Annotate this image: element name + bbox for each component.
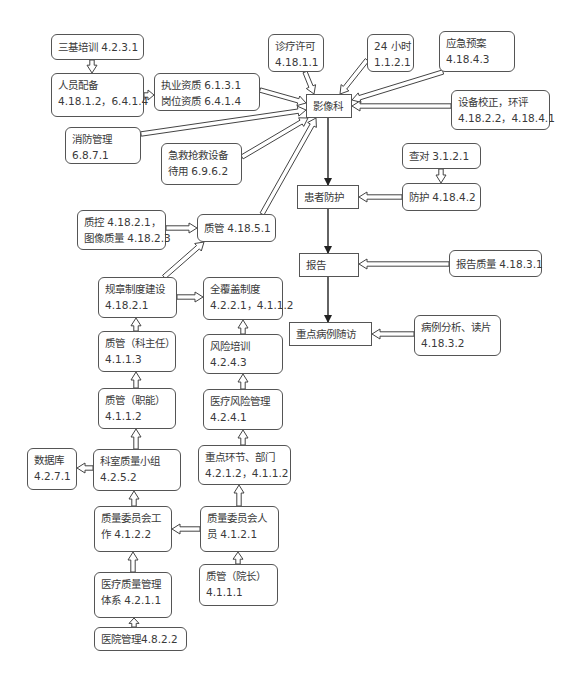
node-quanfugai: 全覆盖制度4.2.2.1，4.1.1.2 [203,277,283,320]
node-label-line2: 4.2.7.1 [34,468,70,484]
node-label-line2: 4.1.1.3 [105,351,169,367]
node-zhikong: 质控 4.18.2.1，图像质量 4.18.2.3 [77,210,166,250]
node-label-line2: 4.1.1.1 [206,584,271,600]
node-keshi: 科室质量小组4.2.5.2 [93,449,181,491]
node-renyuan: 人员配备4.18.1.2，6.4.1.4 [51,73,144,117]
arrow-hollow-zhongdianhj-to-yiliaofx [238,430,248,445]
node-label-line2: 6.8.7.1 [72,147,134,163]
node-label-line1: 规章制度建设 [105,281,170,297]
node-guizhang: 规章制度建设4.18.2.1 [98,277,177,318]
node-label-line2: 4.18.1.1 [275,54,317,70]
node-zhiye: 执业资质 6.1.3.1岗位资质 6.4.1.4 [154,73,260,111]
node-label-line1: 医疗质量管理 [101,576,165,592]
arrow-hollow-zhiye-to-yingxiang [259,88,306,106]
node-label-line2: 4.2.5.2 [100,469,174,485]
node-label-line1: 报告质量 4.18.3.1 [456,256,543,272]
node-label-line2: 作 4.1.2.2 [101,526,165,542]
arrow-hollow-fengxian-to-quanfugai [238,320,248,334]
node-zhiguankzr: 质管（科主任）4.1.1.3 [98,331,176,372]
node-label-line1: 查对 3.1.2.1 [409,148,469,164]
node-zhenliao: 诊疗许可4.18.1.1 [268,34,324,72]
node-label-line2: 1.1.2.1 [374,54,407,70]
node-label-line2: 4.18.2.2，4.18.4.1 [458,110,543,126]
node-label-line1: 消防管理 [72,131,134,147]
node-sanji: 三基培训 4.2.3.1 [51,34,144,60]
arrow-hollow-24h-to-yingxiang [340,59,369,94]
node-baogaozl: 报告质量 4.18.3.1 [449,250,542,277]
node-label-line2: 4.1.1.2 [105,408,169,424]
node-jijiu: 急救抢救设备待用 6.9.6.2 [161,143,242,185]
node-label-line1: 质量委员会工 [101,510,165,526]
arrow-hollow-weiyuangz-to-keshi [129,491,139,506]
node-label-line1: 重点环节、部门 [205,449,284,465]
node-yiliaofx: 医疗风险管理4.2.4.1 [203,389,283,430]
node-zhiguanzn: 质管（职能）4.1.1.2 [98,388,176,429]
node-label-line2: 4.18.2.1 [105,297,170,313]
node-baogao: 报告 [299,253,359,277]
node-weiyuanry: 质量委员会人员 4.1.2.1 [200,506,279,552]
node-fengxian: 风险培训4.2.4.3 [203,334,283,374]
node-label-line1: 医院管理4.8.2.2 [101,631,178,647]
node-label-line1: 风险培训 [210,338,276,354]
node-label-line1: 24 小时 [374,38,407,54]
node-label-line2: 体系 4.2.1.1 [101,592,165,608]
node-label-line1: 三基培训 4.2.3.1 [58,39,138,55]
node-zhiguan4185: 质管 4.18.5.1 [197,214,276,242]
arrow-hollow-yingji-to-yingxiang [352,70,444,103]
node-weiyuangz: 质量委员会工作 4.1.2.2 [94,506,172,552]
node-label-line1: 患者防护 [304,189,344,205]
node-label-line2: 岗位资质 6.4.1.4 [161,93,253,109]
arrow-hollow-guizhang-to-quanfugai [177,292,203,302]
arrow-hollow-shebei-to-yingxiang [352,101,451,111]
node-label-line1: 质管（科主任） [105,335,169,351]
node-zhongdian: 重点病例随访 [289,322,372,346]
node-huanzhe: 患者防护 [297,185,359,209]
arrow-hollow-yiliaozl-to-weiyuangz [128,552,138,572]
node-label-line1: 执业资质 6.1.3.1 [161,77,253,93]
node-label-line1: 全覆盖制度 [210,281,276,297]
node-shebei: 设备校正，环评4.18.2.2，4.18.4.1 [451,90,550,130]
node-label-line1: 设备校正，环评 [458,94,543,110]
node-label-line2: 4.2.4.3 [210,354,276,370]
arrow-hollow-weiyuanry-to-zhongdianhj [234,485,244,506]
node-yingji: 应急预案4.18.4.3 [439,31,515,72]
node-label-line2: 员 4.1.2.1 [207,526,272,542]
node-label-line1: 影像科 [313,98,343,114]
node-label-line2: 4.2.1.2，4.1.1.2 [205,465,284,481]
arrow-hollow-chadui-to-fanghu [436,169,446,183]
node-label-line1: 质量委员会人 [207,510,272,526]
node-label-line2: 待用 6.9.6.2 [168,163,235,179]
node-yingxiang: 影像科 [306,94,352,118]
arrow-hollow-sanji-to-renyuan [87,60,97,73]
node-label-line1: 急救抢救设备 [168,147,235,163]
node-label-line2: 4.18.4.3 [446,51,508,67]
node-label-line1: 质管（职能） [105,392,169,408]
node-label-line1: 质管（院长） [206,568,271,584]
arrow-hollow-bingli-to-zhongdian [372,329,414,339]
arrow-hollow-fanghu-to-huanzhe [359,192,402,202]
arrow-hollow-guizhang-to-zhiguan4185 [163,242,204,279]
node-zhiguanyz: 质管（院长）4.1.1.1 [199,564,278,606]
node-label-line2: 图像质量 4.18.2.3 [84,230,159,246]
node-label-line1: 人员配备 [58,77,137,93]
node-label-line2: 4.18.3.2 [421,335,494,351]
node-label-line1: 质控 4.18.2.1， [84,214,159,230]
node-yiliaozl: 医疗质量管理体系 4.2.1.1 [94,572,172,618]
node-label-line1: 应急预案 [446,35,508,51]
node-label-line1: 科室质量小组 [100,453,174,469]
node-chadui: 查对 3.1.2.1 [402,143,481,169]
node-shujuku: 数据库4.2.7.1 [27,448,77,490]
arrow-hollow-keshi-to-zhiguanzn [131,429,141,449]
node-label-line2: 4.18.1.2，6.4.1.4 [58,93,137,109]
arrow-hollow-zhiguanzn-to-zhiguankzr [131,372,141,388]
node-label-line1: 重点病例随访 [296,326,356,342]
node-xiaofang: 消防管理6.8.7.1 [65,127,141,164]
arrow-hollow-zhenliao-to-yingxiang [303,71,316,94]
node-24h: 24 小时1.1.2.1 [367,34,414,72]
node-label-line1: 防护 4.18.4.2 [409,189,476,205]
node-label-line2: 4.2.4.1 [210,409,276,425]
arrow-hollow-weiyuanry-to-weiyuangz [172,524,200,534]
node-label-line1: 数据库 [34,452,70,468]
arrow-hollow-keshi-to-shujuku [77,463,93,473]
node-yiyuan: 医院管理4.8.2.2 [94,627,187,651]
